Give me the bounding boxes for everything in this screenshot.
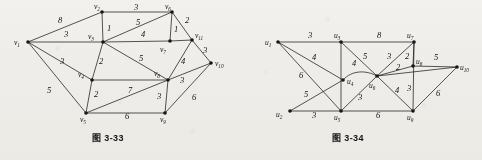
edge-v5-v8: [86, 80, 168, 113]
node-label-v2: v2: [94, 2, 100, 12]
node-v9: [163, 111, 167, 115]
node-label-u3: u3: [334, 31, 341, 41]
edge-weight-u8-u9: 3: [406, 83, 411, 93]
edge-v9-v10: [165, 63, 211, 113]
node-u1: [276, 40, 280, 44]
node-label-u1: u1: [265, 38, 272, 48]
edge-weight-v3-v6: 5: [136, 17, 140, 27]
node-v4: [90, 78, 94, 82]
edge-v11-v10: [192, 40, 211, 63]
node-label-u4: u4: [347, 77, 354, 87]
edge-weight-v8-v9: 3: [156, 91, 161, 101]
edge-weight-u1-u3: 3: [307, 30, 312, 40]
node-label-v3: v3: [88, 32, 94, 42]
edge-weight-v4-v5: 2: [94, 89, 99, 99]
edge-weight-u3-u7: 8: [377, 30, 382, 40]
node-label-v10: v10: [215, 59, 224, 69]
edge-weight-u6-u8: 2: [396, 62, 401, 72]
edge-weight-u5-u6: 3: [357, 92, 362, 102]
edge-weight-u3-u6: 5: [363, 51, 367, 61]
edge-weight-v3-v4: 2: [99, 56, 104, 66]
edge-weight-v3-v7: 4: [141, 29, 146, 39]
edge-weight-v2-v6: 3: [133, 2, 138, 12]
node-label-u6: u6: [369, 81, 376, 91]
node-label-v7: v7: [160, 45, 166, 55]
edge-u3-u6: [341, 42, 377, 76]
node-v3: [101, 40, 105, 44]
edge-v4-v5: [86, 80, 92, 113]
node-u5: [339, 109, 343, 113]
node-label-v8: v8: [154, 69, 160, 79]
edge-weight-u9-u10: 6: [436, 88, 441, 98]
edge-v8-v10: [168, 63, 211, 80]
node-label-u2: u2: [276, 110, 283, 120]
node-u10: [455, 65, 459, 69]
node-label-u5: u5: [334, 113, 341, 123]
edge-v11-v8: [168, 40, 192, 80]
edge-weight-v9-v10: 6: [192, 92, 197, 102]
node-u6: [375, 74, 379, 78]
graph-canvas: v1 v2 v3 v4 v5 v6 v7 v8 v9 v10 v11 8 3 3…: [0, 0, 482, 160]
node-u9: [411, 109, 415, 113]
edge-weight-u2-u4: 5: [304, 89, 308, 99]
edge-weight-v5-v8: 7: [128, 85, 133, 95]
edge-weight-v3-v8: 5: [139, 53, 143, 63]
edge-v3-v7: [103, 41, 170, 42]
node-label-v6: v6: [165, 2, 171, 12]
edge-v8-v9: [165, 80, 168, 113]
node-label-u10: u10: [460, 63, 469, 73]
node-label-u7: u7: [407, 31, 414, 41]
edge-u1-u4: [278, 42, 343, 80]
edge-u9-u10: [413, 67, 457, 111]
node-label-v1: v1: [14, 38, 20, 48]
node-label-v5: v5: [80, 115, 86, 125]
node-label-v4: v4: [78, 70, 84, 80]
node-u4: [341, 78, 345, 82]
node-v7: [168, 39, 172, 43]
edge-weight-u8-u10: 5: [434, 52, 438, 62]
node-v2: [100, 10, 104, 14]
figure-3-33-graph: v1 v2 v3 v4 v5 v6 v7 v8 v9 v10 v11 8 3 3…: [14, 2, 224, 125]
figure-3-34-graph: u1 u2 u3 u4 u5 u6 u7 u8 u9 u10 3 4 6 5 3…: [265, 30, 469, 123]
edge-weight-u6-u7: 3: [386, 51, 391, 61]
edge-weight-u4-u6: 4: [352, 58, 357, 68]
node-v10: [209, 61, 213, 65]
edge-weight-u6-u9: 4: [395, 85, 400, 95]
edge-v6-v7: [170, 12, 172, 41]
edge-weight-v1-v3: 3: [63, 29, 68, 39]
edge-weight-v6-v7: 1: [174, 24, 178, 34]
node-u8: [411, 64, 415, 68]
figure-caption-3-33: 图 3-33: [92, 131, 124, 144]
edge-weight-u2-u5: 3: [311, 110, 316, 120]
edge-weight-u1-u5: 6: [299, 70, 304, 80]
node-u7: [412, 40, 416, 44]
node-label-u8: u8: [416, 57, 423, 67]
node-label-u9: u9: [407, 113, 414, 123]
node-v8: [166, 78, 170, 82]
node-u2: [288, 109, 292, 113]
edge-v2-v3: [102, 12, 103, 42]
edge-weight-v1-v5: 5: [47, 85, 51, 95]
edge-weight-v11-v10: 3: [202, 45, 207, 55]
edge-u1-u5: [278, 42, 341, 111]
edge-weight-v2-v3: 1: [107, 23, 111, 33]
figure-caption-3-34: 图 3-34: [332, 131, 364, 144]
edge-u6-u10: [377, 67, 457, 76]
edge-weight-v6-v11: 2: [185, 15, 190, 25]
node-label-v11: v11: [195, 31, 204, 41]
node-v11: [190, 38, 194, 42]
edge-weight-u7-u8: 2: [405, 51, 410, 61]
node-label-v9: v9: [160, 115, 166, 125]
edge-weight-v1-v4: 3: [59, 56, 64, 66]
edge-weight-v11-v8: 4: [181, 56, 186, 66]
edge-weight-u1-u4: 4: [312, 52, 317, 62]
figure-page: v1 v2 v3 v4 v5 v6 v7 v8 v9 v10 v11 8 3 3…: [0, 0, 482, 160]
edge-v7-v11: [170, 40, 192, 41]
edge-weight-v5-v9: 6: [125, 111, 130, 121]
edge-weight-v8-v10: 3: [179, 75, 184, 85]
edge-weight-u5-u9: 6: [376, 110, 381, 120]
node-v1: [26, 40, 30, 44]
node-v5: [84, 111, 88, 115]
edge-weight-v1-v2: 8: [58, 15, 63, 25]
node-u3: [339, 40, 343, 44]
